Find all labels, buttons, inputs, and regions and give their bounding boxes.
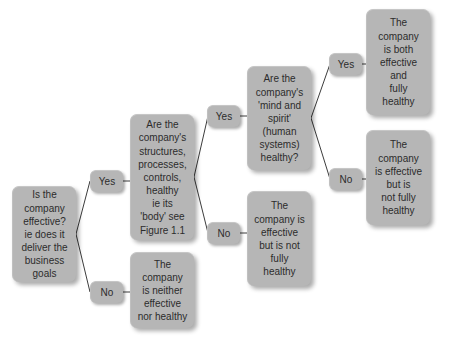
edge-q1-yes: [76, 181, 90, 234]
decision-tree-diagram: Is the company effective? ie does it del…: [0, 0, 451, 345]
edge-label-yes-2: Yes: [207, 105, 240, 127]
node-text: The company is effective but is not full…: [375, 138, 422, 217]
outcome-node-neither-effective-nor-healthy: The company is neither effective nor hea…: [130, 252, 194, 328]
question-node-company-mind-and-spirit: Are the company's 'mind and spirit' (hum…: [247, 66, 311, 170]
edge-label-no-2: No: [207, 222, 240, 244]
edge-label-no-3: No: [329, 168, 362, 190]
outcome-node-effective-not-fully-healthy-upper: The company is effective but is not full…: [366, 130, 430, 225]
edge-q3-no: [311, 118, 330, 179]
node-text: The company is effective but is not full…: [254, 199, 305, 278]
edge-label-text: No: [340, 174, 353, 185]
edge-label-yes-1: Yes: [90, 170, 123, 192]
edge-label-text: Yes: [99, 176, 115, 187]
outcome-node-effective-not-fully-healthy-lower: The company is effective but is not full…: [247, 191, 311, 286]
question-node-company-structures: Are the company's structures, processes,…: [130, 114, 194, 240]
edge-q3-yes: [311, 64, 330, 118]
edge-label-text: No: [101, 287, 114, 298]
outcome-node-effective-and-fully-healthy: The company is both effective and fully …: [366, 9, 430, 115]
question-node-company-effective: Is the company effective? ie does it del…: [12, 186, 76, 282]
edge-label-text: Yes: [338, 59, 354, 70]
edge-label-yes-3: Yes: [329, 53, 362, 75]
node-text: Are the company's 'mind and spirit' (hum…: [256, 72, 304, 164]
edge-label-no-1: No: [90, 281, 123, 303]
edge-label-text: Yes: [216, 111, 232, 122]
edge-q2-yes: [194, 116, 208, 177]
edge-q1-no: [76, 234, 90, 292]
edge-label-text: No: [218, 228, 231, 239]
node-text: The company is both effective and fully …: [378, 16, 419, 108]
edge-q2-no: [194, 177, 208, 233]
node-text: Are the company's structures, processes,…: [138, 118, 186, 237]
node-text: The company is neither effective nor hea…: [138, 258, 187, 324]
node-text: Is the company effective? ie does it del…: [21, 188, 67, 280]
